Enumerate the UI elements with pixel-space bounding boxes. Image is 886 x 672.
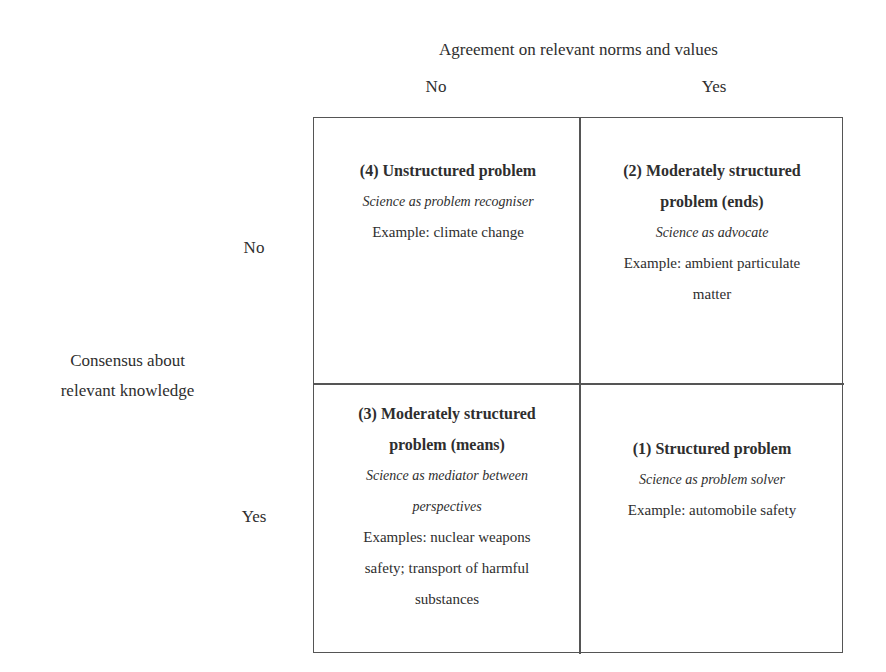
cell-role: Science as problem solver xyxy=(592,464,832,495)
cell-title-line2: problem (means) xyxy=(322,429,572,460)
cell-title: (4) Unstructured problem xyxy=(330,155,566,186)
cell-role-line1: Science as mediator between xyxy=(322,460,572,491)
cell-unstructured-problem: (4) Unstructured problem Science as prob… xyxy=(330,155,566,248)
y-axis-label-yes: Yes xyxy=(214,505,294,529)
cell-title-line1: (2) Moderately structured xyxy=(592,155,832,186)
cell-example: Example: automobile safety xyxy=(592,495,832,526)
cell-example-line2: safety; transport of harmful xyxy=(322,553,572,584)
y-axis-label-no: No xyxy=(214,236,294,260)
x-axis-label-no: No xyxy=(376,75,496,99)
horizontal-divider xyxy=(313,383,844,385)
cell-example-line1: Example: ambient particulate xyxy=(592,248,832,279)
cell-structured-problem: (1) Structured problem Science as proble… xyxy=(592,433,832,526)
cell-title: (1) Structured problem xyxy=(592,433,832,464)
cell-example-line1: Examples: nuclear weapons xyxy=(322,522,572,553)
y-axis-title-line1: Consensus about xyxy=(30,346,225,376)
cell-example: Example: climate change xyxy=(330,217,566,248)
x-axis-label-yes: Yes xyxy=(654,75,774,99)
cell-role-line2: perspectives xyxy=(322,491,572,522)
cell-example-line2: matter xyxy=(592,279,832,310)
y-axis-title-line2: relevant knowledge xyxy=(30,376,225,406)
x-axis-title: Agreement on relevant norms and values xyxy=(313,38,844,62)
vertical-divider xyxy=(579,117,581,654)
cell-role: Science as advocate xyxy=(592,217,832,248)
cell-title-line1: (3) Moderately structured xyxy=(322,398,572,429)
cell-example-line3: substances xyxy=(322,584,572,615)
cell-title-line2: problem (ends) xyxy=(592,186,832,217)
cell-moderately-structured-means: (3) Moderately structured problem (means… xyxy=(322,398,572,615)
cell-moderately-structured-ends: (2) Moderately structured problem (ends)… xyxy=(592,155,832,310)
y-axis-title: Consensus about relevant knowledge xyxy=(30,346,225,406)
cell-role: Science as problem recogniser xyxy=(330,186,566,217)
